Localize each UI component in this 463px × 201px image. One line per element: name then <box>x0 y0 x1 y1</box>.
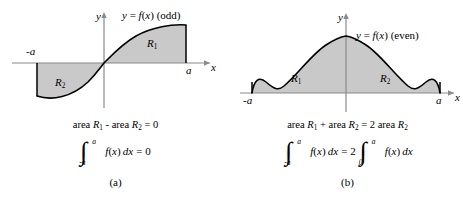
integral-upper-limit: a <box>92 137 96 146</box>
integral-symbol-group-even-lhs: ∫ a -a <box>282 138 308 166</box>
caption-odd: area R1 - area R2 = 0 ∫ a -a f(x) dx = 0 <box>0 118 231 166</box>
region-label-r2: R2 <box>55 76 65 90</box>
region-label-r2: R2 <box>380 72 390 86</box>
integrand-odd: f(x) dx <box>105 145 133 159</box>
integral-upper-limit: a <box>297 137 301 146</box>
panel-even-function: y x y = f(x) (even) -a a R1 R2 area R1 +… <box>232 0 463 201</box>
x-axis-label: x <box>211 61 216 73</box>
x-axis-label: x <box>455 91 460 103</box>
x-axis-arrow <box>204 60 210 66</box>
integral-symbol-group-even-rhs: ∫ a 0 <box>357 138 383 166</box>
formula-odd: ∫ a -a f(x) dx = 0 <box>0 138 231 166</box>
plot-even-function: y x y = f(x) (even) -a a R1 R2 <box>232 0 463 118</box>
coefficient-two: 2 <box>350 145 356 159</box>
integral-lower-limit: 0 <box>359 158 363 167</box>
integral-lower-limit: -a <box>79 158 85 167</box>
panel-odd-function: y x y = f(x) (odd) -a a R1 R2 area R1 - … <box>0 0 231 201</box>
caption-even: area R1 + area R2 = 2 area R2 ∫ a -a f(x… <box>232 118 463 166</box>
tick-label-a: a <box>436 94 442 106</box>
region-label-r1: R1 <box>147 37 157 51</box>
equals-sign-even: = <box>341 145 347 159</box>
figure-container: y x y = f(x) (odd) -a a R1 R2 area R1 - … <box>0 0 463 201</box>
x-axis-arrow <box>448 90 454 96</box>
y-axis-arrow <box>101 12 106 18</box>
panel-sublabel-a: (a) <box>0 176 231 188</box>
integrand-even-rhs: f(x) dx <box>385 145 413 159</box>
plot-odd-function: y x y = f(x) (odd) -a a R1 R2 <box>0 0 231 118</box>
function-label-odd: y = f(x) (odd) <box>122 9 180 21</box>
tick-label-minus-a: -a <box>243 94 252 106</box>
panel-sublabel-b: (b) <box>232 176 463 188</box>
region-label-r1: R1 <box>291 72 301 86</box>
area-statement-odd: area R1 - area R2 = 0 <box>0 118 231 133</box>
formula-result-odd: = 0 <box>136 145 150 159</box>
y-axis-label: y <box>338 11 343 23</box>
shaded-region-r1 <box>104 25 186 63</box>
tick-label-a: a <box>186 64 192 76</box>
integral-upper-limit: a <box>372 137 376 146</box>
y-axis-arrow <box>343 13 348 19</box>
integral-lower-limit: -a <box>284 158 290 167</box>
area-statement-even: area R1 + area R2 = 2 area R2 <box>232 118 463 133</box>
formula-even: ∫ a -a f(x) dx = 2 ∫ a 0 f(x) dx <box>232 138 463 166</box>
integrand-even-lhs: f(x) dx <box>310 145 338 159</box>
function-label-even: y = f(x) (even) <box>356 29 419 41</box>
tick-label-minus-a: -a <box>26 45 35 57</box>
y-axis-label: y <box>96 10 101 22</box>
integral-symbol-group-odd: ∫ a -a <box>77 138 103 166</box>
